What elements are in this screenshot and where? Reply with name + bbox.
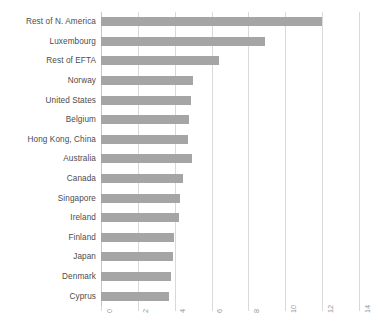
- bar: [101, 96, 191, 105]
- bar-row: [101, 130, 188, 150]
- bar: [101, 135, 188, 144]
- bar-row: [101, 71, 193, 91]
- tick-label-6: 6: [215, 309, 224, 313]
- category-label: Finland: [0, 228, 96, 248]
- tick-label-0: 0: [105, 309, 114, 313]
- category-label: Cyprus: [0, 286, 96, 306]
- tick-mark-14: [359, 306, 360, 311]
- category-label: Rest of EFTA: [0, 51, 96, 71]
- bar-row: [101, 90, 191, 110]
- bar: [101, 56, 219, 65]
- bar: [101, 76, 193, 85]
- category-label: Singapore: [0, 188, 96, 208]
- bar-row: [101, 51, 219, 71]
- category-label: Canada: [0, 169, 96, 189]
- tick-mark-4: [175, 306, 176, 311]
- bar-row: [101, 32, 265, 52]
- category-label: Hong Kong, China: [0, 130, 96, 150]
- bar: [101, 272, 171, 281]
- tick-label-12: 12: [326, 305, 335, 313]
- bar-row: [101, 208, 179, 228]
- category-axis-labels: Rest of N. AmericaLuxembourgRest of EFTA…: [0, 12, 96, 306]
- category-label: Rest of N. America: [0, 12, 96, 32]
- plot-area: [101, 12, 359, 306]
- tick-label-2: 2: [141, 309, 150, 313]
- category-label: Denmark: [0, 267, 96, 287]
- tick-mark-6: [212, 306, 213, 311]
- bar: [101, 213, 179, 222]
- tick-mark-10: [285, 306, 286, 311]
- category-label: United States: [0, 90, 96, 110]
- category-label: Luxembourg: [0, 32, 96, 52]
- bar-row: [101, 110, 189, 130]
- bar-row: [101, 267, 171, 287]
- bar: [101, 17, 322, 26]
- bar-row: [101, 12, 322, 32]
- bar: [101, 194, 180, 203]
- tick-mark-8: [248, 306, 249, 311]
- bar: [101, 37, 265, 46]
- tick-label-10: 10: [289, 305, 298, 313]
- bar-row: [101, 228, 174, 248]
- bar: [101, 174, 183, 183]
- bar-row: [101, 149, 192, 169]
- tick-label-14: 14: [363, 305, 372, 313]
- bar-row: [101, 169, 183, 189]
- tick-label-8: 8: [252, 309, 261, 313]
- gridline-14: [359, 12, 360, 306]
- bar: [101, 233, 174, 242]
- tick-mark-12: [322, 306, 323, 311]
- value-axis-ticks: 02468101214: [101, 306, 359, 331]
- category-label: Belgium: [0, 110, 96, 130]
- bars: [101, 12, 359, 306]
- bar-row: [101, 188, 180, 208]
- category-label: Ireland: [0, 208, 96, 228]
- bar-row: [101, 286, 169, 306]
- bar-row: [101, 247, 173, 267]
- category-label: Australia: [0, 149, 96, 169]
- bar: [101, 154, 192, 163]
- tick-label-4: 4: [178, 309, 187, 313]
- category-label: Japan: [0, 247, 96, 267]
- bar: [101, 292, 169, 301]
- bar: [101, 252, 173, 261]
- tick-mark-0: [101, 306, 102, 311]
- tick-mark-2: [138, 306, 139, 311]
- bar: [101, 115, 189, 124]
- category-label: Norway: [0, 71, 96, 91]
